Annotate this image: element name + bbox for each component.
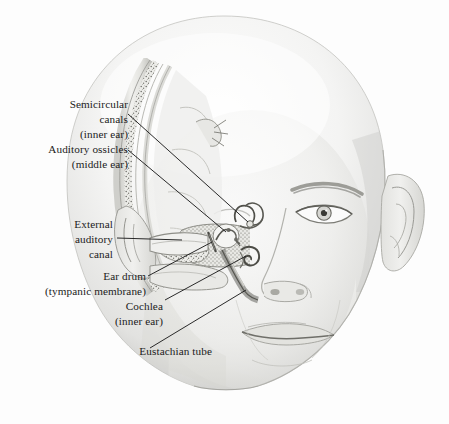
auditory-ossicles	[213, 224, 240, 248]
label-auditory-ossicles-line1: Auditory ossicles	[0, 142, 128, 157]
head-illustration	[0, 0, 449, 424]
label-cochlea-line1: Cochlea	[0, 299, 163, 314]
label-semicircular-canals-line3: (inner ear)	[0, 127, 128, 142]
label-ear-drum-line1: Ear drum	[0, 269, 146, 284]
label-cochlea-line2: (inner ear)	[0, 314, 163, 329]
label-external-auditory-canal-line3: canal	[0, 247, 113, 262]
label-external-auditory-canal: External auditory canal	[0, 217, 113, 262]
label-eustachian-tube-line1: Eustachian tube	[0, 344, 212, 359]
label-semicircular-canals-line2: canals	[0, 112, 128, 127]
external-auditory-canal-structure	[150, 233, 208, 255]
ear-anatomy-figure: Semicircular canals (inner ear) Auditory…	[0, 0, 449, 424]
label-auditory-ossicles: Auditory ossicles (middle ear)	[0, 142, 128, 172]
right-ear	[381, 174, 424, 271]
label-auditory-ossicles-line2: (middle ear)	[0, 157, 128, 172]
label-external-auditory-canal-line2: auditory	[0, 232, 113, 247]
label-cochlea: Cochlea (inner ear)	[0, 299, 163, 329]
label-semicircular-canals: Semicircular canals (inner ear)	[0, 97, 128, 142]
label-semicircular-canals-line1: Semicircular	[0, 97, 128, 112]
label-ear-drum: Ear drum (tympanic membrane)	[0, 269, 146, 299]
label-ear-drum-line2: (tympanic membrane)	[0, 284, 146, 299]
label-eustachian-tube: Eustachian tube	[0, 344, 212, 359]
label-external-auditory-canal-line1: External	[0, 217, 113, 232]
